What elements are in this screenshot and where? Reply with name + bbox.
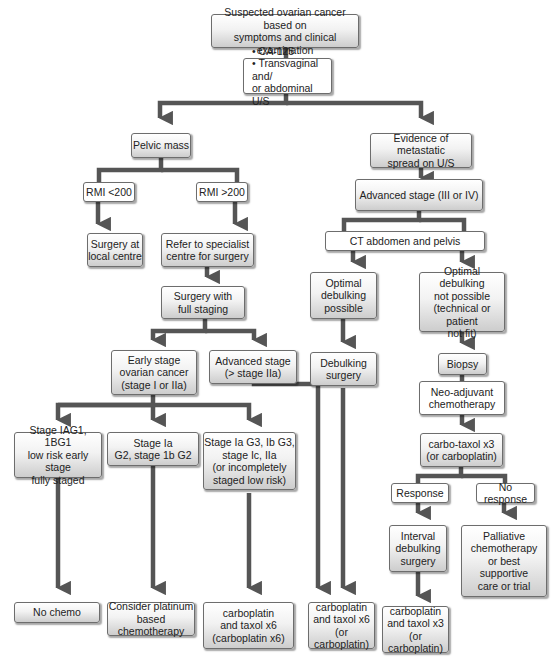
- node-suspected-ovarian-cancer: Suspected ovarian cancer based on sympto…: [211, 14, 359, 48]
- node-surgery-local-centre: Surgery at local centre: [87, 233, 143, 267]
- node-surgery-full-staging: Surgery with full staging: [161, 286, 245, 319]
- node-ct-abdomen-pelvis: CT abdomen and pelvis: [325, 231, 485, 251]
- node-metastatic-spread: Evidence of metastatic spread on U/S: [370, 133, 472, 168]
- node-refer-specialist: Refer to specialist centre for surgery: [161, 233, 254, 267]
- node-carboplatin-taxol-x6-early: carboplatin and taxol x6 (carboplatin x6…: [203, 602, 294, 649]
- node-carbo-taxol-x3: carbo-taxol x3 (or carboplatin): [420, 433, 503, 467]
- node-neo-adjuvant-chemotherapy: Neo-adjuvant chemotherapy: [419, 381, 505, 415]
- node-biopsy: Biopsy: [438, 353, 487, 375]
- node-carboplatin-taxol-x6-advanced: carboplatin and taxol x6 (or carboplatin…: [308, 602, 375, 649]
- node-rmi-below-200: RMI <200: [83, 182, 135, 202]
- node-early-stage: Early stage ovarian cancer (stage I or I…: [111, 350, 197, 395]
- node-stage-high-risk: Stage Ia G3, Ib G3, stage Ic, IIa (or in…: [203, 432, 296, 490]
- node-rmi-above-200: RMI >200: [196, 182, 248, 202]
- node-no-chemo: No chemo: [14, 602, 100, 623]
- node-response: Response: [391, 483, 449, 503]
- node-optimal-debulking-possible: Optimal debulking possible: [310, 272, 377, 319]
- node-debulking-surgery: Debulking surgery: [310, 352, 377, 386]
- node-palliative: Palliative chemotherapy or best supporti…: [461, 525, 547, 597]
- node-interval-debulking: Interval debulking surgery: [389, 525, 447, 572]
- node-advanced-stage-iia: Advanced stage (> stage IIa): [209, 350, 297, 384]
- node-initial-tests: • CA-125 • Transvaginal and/ or abdomina…: [243, 58, 332, 94]
- node-stage-ia-g2: Stage Ia G2, stage 1b G2: [107, 432, 199, 466]
- node-carboplatin-taxol-x3-final: carboplatin and taxol x3 (or carboplatin…: [382, 606, 449, 653]
- node-advanced-stage-iii-iv: Advanced stage (III or IV): [355, 179, 483, 211]
- node-pelvic-mass: Pelvic mass: [131, 133, 191, 158]
- node-consider-platinum: Consider platinum based chemotherapy: [107, 602, 195, 636]
- node-stage-low-risk: Stage IAG1, 1BG1 low risk early stage fu…: [14, 432, 102, 478]
- node-no-response: No response: [476, 483, 535, 503]
- node-optimal-debulking-not-possible: Optimal debulking not possible (technica…: [419, 272, 505, 332]
